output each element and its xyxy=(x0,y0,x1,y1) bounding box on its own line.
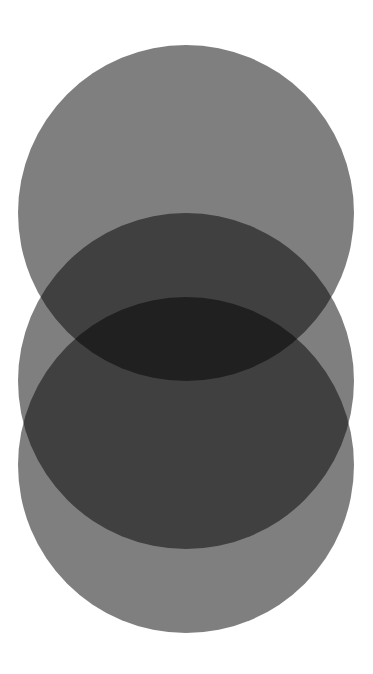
overlapping-circles-diagram: Three Overlapping Translucent Circles xyxy=(0,0,373,674)
figure-canvas: Three Overlapping Translucent Circles xyxy=(0,0,373,674)
circle-bottom[interactable] xyxy=(18,297,354,633)
circle-group xyxy=(18,45,354,633)
